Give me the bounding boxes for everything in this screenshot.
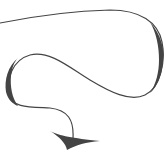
- arrow-curve-thick-right: [150, 22, 163, 93]
- curly-arrow-icon: [0, 0, 166, 160]
- arrow-curve-path: [0, 10, 163, 138]
- curly-arrow-illustration: [0, 0, 166, 160]
- arrowhead-icon: [50, 131, 100, 150]
- arrow-curve-thick-left: [6, 58, 19, 106]
